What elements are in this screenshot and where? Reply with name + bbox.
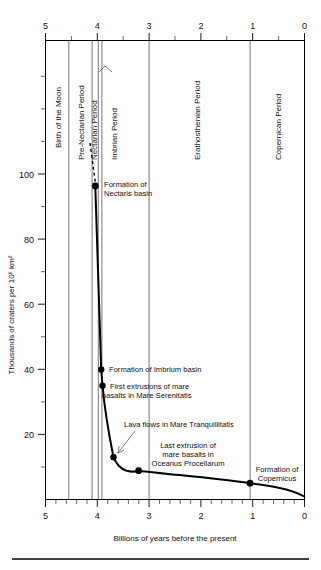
y-axis-title: Thousands of craters per 10⁶ km² — [7, 255, 16, 374]
bottom-tick-2: 2 — [198, 511, 203, 521]
top-tick-3: 3 — [147, 21, 152, 31]
annotation-nectaris-line1: Formation of — [104, 180, 148, 189]
top-axis-ticks — [46, 33, 305, 41]
bottom-tick-0: 0 — [302, 511, 307, 521]
point-mare-serenitatis — [99, 383, 105, 389]
annotation-procellarum-line1: Last extrusion of — [160, 441, 217, 450]
annotation-copernicus-line1: Formation of — [256, 465, 300, 474]
annotation-tranquillitatis: Lava flows in Mare Tranquillitatis — [124, 420, 234, 429]
y-axis-labels: 100 80 60 40 20 — [19, 170, 34, 440]
nectarian-leader-line — [99, 66, 112, 72]
point-mare-tranquillitatis — [110, 454, 116, 460]
point-oceanus-procellarum — [135, 467, 142, 474]
bottom-axis-ticks — [46, 500, 305, 508]
y-tick-60: 60 — [24, 300, 34, 310]
top-tick-2: 2 — [198, 21, 203, 31]
y-tick-80: 80 — [24, 235, 34, 245]
x-axis-title: Billions of years before the present — [113, 534, 237, 543]
top-tick-0: 0 — [302, 21, 307, 31]
bottom-tick-4: 4 — [95, 511, 100, 521]
point-imbrium-basin — [98, 366, 104, 372]
bottom-tick-3: 3 — [147, 511, 152, 521]
period-labels: Birth of the Moon Pre-Nectarian Period N… — [54, 81, 283, 160]
period-label-erathosthenian: Erathosthenian Period — [193, 81, 202, 160]
tranquillitatis-leader-line — [118, 431, 135, 453]
annotation-nectaris-line2: Nectaris basin — [104, 189, 152, 198]
chart-figure: 5 4 3 2 1 0 — [0, 0, 321, 570]
annotation-serenitatis-line2: basalts in Mare Serenitatis — [102, 391, 192, 400]
top-axis-labels: 5 4 3 2 1 0 — [43, 21, 307, 31]
y-tick-100: 100 — [19, 170, 34, 180]
period-label-pre-nectarian: Pre-Nectarian Period — [77, 85, 86, 160]
period-label-birth-of-the-moon: Birth of the Moon — [54, 87, 63, 148]
top-tick-1: 1 — [250, 21, 255, 31]
annotation-copernicus-line2: Copernicus — [258, 474, 297, 483]
annotation-nectaris: Formation of Nectaris basin — [104, 180, 152, 198]
top-tick-4: 4 — [95, 21, 100, 31]
y-tick-20: 20 — [24, 430, 34, 440]
annotation-procellarum-line2: mare basalts in — [162, 450, 214, 459]
annotation-procellarum: Last extrusion of mare basalts in Oceanu… — [151, 441, 224, 468]
bottom-tick-1: 1 — [250, 511, 255, 521]
point-nectaris-basin — [92, 183, 99, 190]
bottom-axis-labels: 5 4 3 2 1 0 — [43, 511, 307, 521]
annotation-serenitatis: First extrusions of mare basalts in Mare… — [102, 382, 192, 400]
period-label-copernican: Copernican Period — [274, 94, 283, 160]
period-label-imbrian: Imbrian Period — [110, 108, 119, 160]
top-tick-5: 5 — [43, 21, 48, 31]
annotation-procellarum-line3: Oceanus Procellarum — [151, 459, 224, 468]
annotation-imbrium: Formation of Imbrium basin — [109, 365, 201, 374]
bottom-tick-5: 5 — [43, 511, 48, 521]
y-axis-ticks — [38, 76, 46, 467]
point-copernicus — [247, 480, 254, 487]
annotation-serenitatis-line1: First extrusions of mare — [110, 382, 189, 391]
annotation-copernicus: Formation of Copernicus — [256, 465, 300, 483]
y-tick-40: 40 — [24, 365, 34, 375]
